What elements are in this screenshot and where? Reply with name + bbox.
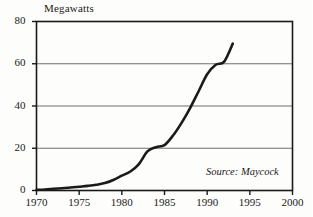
x-tick-label: 1970 [17,196,57,208]
data-series-line [37,44,233,190]
x-tick-label: 1985 [145,196,185,208]
x-tick-label: 2000 [273,196,313,208]
chart-figure: Megawatts Source: Maycock 020406080 1970… [0,0,312,217]
gridlines [37,64,293,149]
plot-area [0,0,312,217]
x-tick-label: 1995 [230,196,270,208]
x-tick-label: 1980 [102,196,142,208]
y-tick-label: 80 [4,14,26,26]
x-tick-label: 1975 [59,196,99,208]
y-tick-label: 60 [4,56,26,68]
y-tick-label: 0 [4,183,26,195]
x-tick-label: 1990 [187,196,227,208]
y-tick-label: 20 [4,141,26,153]
y-tick-label: 40 [4,99,26,111]
